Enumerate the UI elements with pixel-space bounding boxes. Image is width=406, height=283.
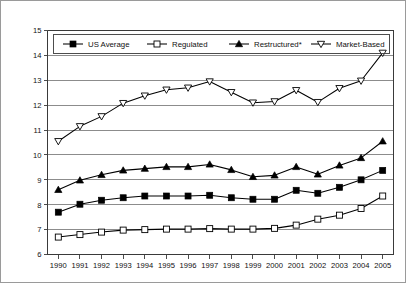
data-point-marker (77, 232, 83, 238)
y-tick-label: 8 (37, 201, 41, 210)
data-point-marker (55, 209, 61, 215)
data-point-marker (70, 41, 76, 47)
series-line (58, 170, 382, 212)
data-point-marker (77, 201, 83, 207)
data-point-marker (206, 161, 213, 167)
data-point-marker (380, 193, 386, 199)
data-point-marker (293, 88, 300, 94)
data-point-marker (293, 187, 299, 193)
data-point-marker (315, 216, 321, 222)
chart-legend: US AverageRegulatedRestructured*Market-B… (54, 35, 390, 54)
data-point-marker (358, 205, 364, 211)
data-point-marker (293, 163, 300, 169)
x-tick-label: 1995 (158, 261, 175, 270)
data-point-marker (272, 225, 278, 231)
legend-item-us-average[interactable]: US Average (63, 40, 129, 49)
data-point-marker (358, 177, 364, 183)
data-point-marker (185, 226, 191, 232)
data-point-marker (55, 186, 62, 192)
data-point-marker (272, 196, 278, 202)
y-axis-ticks: 6789101112131415 (33, 26, 47, 259)
data-point-marker (163, 193, 169, 199)
legend-label: Restructured* (254, 40, 302, 49)
x-tick-label: 1994 (136, 261, 153, 270)
y-tick-label: 13 (33, 76, 41, 85)
data-point-marker (154, 41, 160, 47)
x-tick-label: 1997 (201, 261, 218, 270)
y-tick-label: 10 (33, 151, 41, 160)
x-axis-ticks: 1990199119921993199419951996199719981999… (50, 255, 391, 271)
legend-label: US Average (88, 40, 129, 49)
legend-item-restructured[interactable]: Restructured* (229, 40, 302, 49)
data-series-group (55, 50, 387, 240)
data-point-marker (185, 193, 191, 199)
data-point-marker (142, 193, 148, 199)
legend-item-market-based[interactable]: Market-Based (311, 40, 385, 49)
data-point-marker (98, 114, 105, 120)
x-tick-label: 1998 (223, 261, 240, 270)
data-point-marker (336, 86, 343, 92)
data-point-marker (207, 226, 213, 232)
series-line (58, 53, 382, 141)
y-tick-label: 11 (34, 126, 42, 135)
y-tick-label: 6 (37, 250, 41, 259)
x-tick-label: 1993 (115, 261, 132, 270)
data-point-marker (120, 227, 126, 233)
x-tick-label: 2004 (353, 261, 370, 270)
legend-item-regulated[interactable]: Regulated (147, 40, 208, 49)
legend-label: Regulated (172, 40, 208, 49)
series-market-based (55, 50, 387, 145)
x-tick-label: 1990 (50, 261, 67, 270)
x-tick-label: 1996 (180, 261, 197, 270)
y-tick-label: 7 (37, 225, 41, 234)
data-point-marker (120, 195, 126, 201)
series-line (58, 196, 382, 237)
data-point-marker (228, 195, 234, 201)
data-point-marker (250, 226, 256, 232)
chart-figure: 6789101112131415 19901991199219931994199… (0, 0, 406, 283)
x-tick-label: 2001 (288, 261, 305, 270)
data-point-marker (336, 184, 342, 190)
y-tick-label: 14 (33, 51, 41, 60)
data-point-marker (99, 229, 105, 235)
x-tick-label: 2005 (374, 261, 391, 270)
y-tick-label: 12 (33, 101, 41, 110)
y-tick-label: 15 (33, 26, 41, 35)
x-tick-label: 1991 (71, 261, 88, 270)
data-point-marker (228, 226, 234, 232)
data-point-marker (379, 138, 386, 144)
data-point-marker (76, 124, 83, 130)
plot-frame (48, 31, 394, 255)
x-tick-label: 2002 (309, 261, 326, 270)
data-point-marker (142, 227, 148, 233)
data-point-marker (55, 139, 62, 145)
data-point-marker (120, 100, 127, 106)
y-tick-label: 9 (37, 176, 41, 185)
data-point-marker (250, 196, 256, 202)
data-point-marker (207, 192, 213, 198)
series-line (58, 141, 382, 190)
data-point-marker (99, 197, 105, 203)
x-tick-label: 2003 (331, 261, 348, 270)
x-tick-label: 1992 (93, 261, 110, 270)
data-point-marker (163, 226, 169, 232)
line-chart: 6789101112131415 19901991199219931994199… (1, 1, 406, 283)
data-point-marker (55, 234, 61, 240)
data-point-marker (336, 212, 342, 218)
data-point-marker (315, 190, 321, 196)
data-point-marker (380, 167, 386, 173)
legend-label: Market-Based (336, 40, 385, 49)
data-point-marker (228, 90, 235, 96)
x-tick-label: 2000 (266, 261, 283, 270)
data-point-marker (293, 222, 299, 228)
x-tick-label: 1999 (244, 261, 261, 270)
